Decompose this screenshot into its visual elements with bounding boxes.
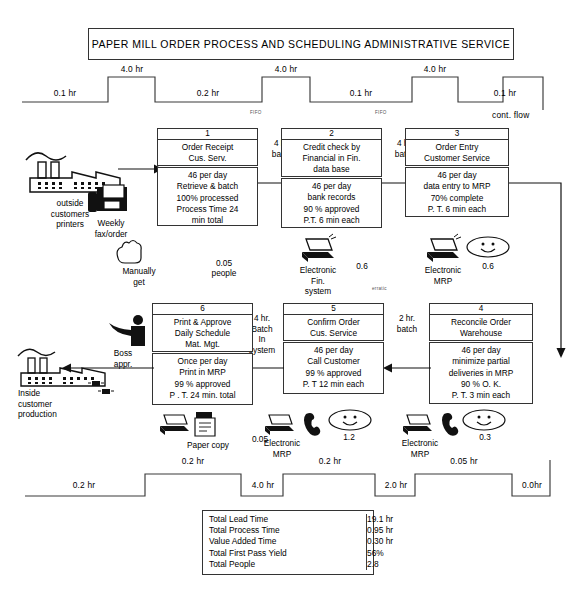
table-row: Total Process Time 0.95 hr [209, 525, 367, 536]
summary-value-2: 0.30 hr [366, 536, 367, 547]
erratic-label: erratic [372, 286, 412, 291]
diagram-title-box: PAPER MILL ORDER PROCESS AND SCHEDULING … [88, 28, 514, 60]
paper-icon [190, 410, 222, 440]
flow-arrow-4-5 [383, 361, 431, 375]
process-2-data: 46 per day bank records 90 % approved P.… [281, 178, 382, 228]
resource-manual-people: 0.05 [198, 258, 250, 269]
process-6-name: Print & Approve Daily Schedule Mat. Mgt. [153, 315, 252, 354]
process-5-data: 46 per day Call Customer 99 % approved P… [283, 342, 384, 394]
summary-key-0: Total Lead Time [209, 514, 268, 525]
process-6-data: Once per day Print in MRP 99 % approved … [152, 353, 253, 405]
resource-fin-system-people: 0.6 [345, 261, 379, 272]
summary-key-3: Total First Pass Yield [209, 548, 287, 559]
summary-value-3: 56% [366, 548, 367, 559]
batch-label-4: 2 hr. batch [387, 313, 427, 334]
process-4-number: 4 [430, 304, 532, 315]
table-row: Total First Pass Yield 56% [209, 548, 367, 559]
top-time-2: 0.2 hr [165, 88, 251, 98]
process-1-name: Order Receipt Cus. Serv. [158, 140, 257, 167]
page-title: PAPER MILL ORDER PROCESS AND SCHEDULING … [92, 38, 510, 50]
process-box-1[interactable]: 1 Order Receipt Cus. Serv. [157, 128, 258, 166]
computer-icon [157, 412, 191, 438]
bot-time-4: 2.0 hr [375, 480, 417, 490]
resource-mrp-label-top: Electronic MRP [413, 265, 473, 286]
summary-value-0: 19.1 hr [366, 514, 367, 525]
bot-time-1: 0.2 hr [146, 456, 240, 466]
process-6-number: 6 [153, 304, 252, 315]
top-time-4: 0.1 hr [318, 88, 404, 98]
table-row: Total People 2.8 [209, 559, 367, 570]
process-3-name: Order Entry Customer Service [406, 140, 508, 167]
summary-key-1: Total Process Time [209, 525, 280, 536]
bot-time-2: 4.0 hr [242, 480, 284, 490]
smiley-face-icon [328, 409, 372, 431]
truck-shipment-icon [74, 377, 118, 395]
resource-mrp-people-top: 0.6 [473, 261, 503, 272]
computer-icon [262, 412, 296, 438]
fifo-label-2: FIFO [375, 110, 405, 115]
computer-icon [423, 236, 461, 264]
top-time-0: 0.1 hr [22, 88, 108, 98]
process-4-data: 46 per day minimize partial deliveries i… [429, 342, 533, 404]
phone-icon [300, 411, 326, 435]
process-4-name: Reconcile Order Warehouse [430, 315, 532, 342]
process-5-number: 5 [284, 304, 383, 315]
fax-machine-icon [85, 183, 133, 217]
process-2-name: Credit check by Financial in Fin. data b… [282, 140, 381, 179]
process-1-data: 46 per day Retrieve & batch 100% process… [157, 167, 258, 226]
hand-icon [114, 238, 148, 264]
computer-icon [298, 236, 336, 264]
top-time-3: 4.0 hr [255, 64, 317, 74]
resource-mrp-people-4: 0.3 [468, 432, 502, 443]
process-box-4[interactable]: 4 Reconcile Order Warehouse [429, 303, 533, 341]
process-box-2[interactable]: 2 Credit check by Financial in Fin. data… [281, 128, 382, 177]
process-box-6[interactable]: 6 Print & Approve Daily Schedule Mat. Mg… [152, 303, 253, 352]
fifo-label-1: FIFO [250, 110, 280, 115]
phone-icon [438, 411, 464, 435]
bot-time-6: 0.0hr [510, 480, 554, 490]
process-2-number: 2 [282, 129, 381, 140]
smiley-face-icon [462, 409, 506, 431]
bot-time-3: 0.2 hr [285, 456, 375, 466]
summary-value-4: 2.8 [366, 559, 367, 570]
process-3-number: 3 [406, 129, 508, 140]
process-5-name: Confirm Order Cus. Service [284, 315, 383, 342]
top-time-6: 0.1 hr [462, 88, 548, 98]
resource-manual-people-unit: people [198, 268, 250, 279]
smiley-face-icon [466, 236, 510, 258]
top-time-1: 4.0 hr [101, 64, 163, 74]
resource-fin-system-label: Electronic Fin. system [288, 265, 348, 297]
bot-time-5: 0.05 hr [418, 456, 510, 466]
summary-key-2: Value Added Time [209, 536, 276, 547]
resource-mrp-people-5: 1.2 [332, 432, 366, 443]
top-time-5: 4.0 hr [404, 64, 466, 74]
process-3-data: 46 per day data entry to MRP 70% complet… [405, 167, 509, 217]
process-box-3[interactable]: 3 Order Entry Customer Service [405, 128, 509, 166]
process-box-5[interactable]: 5 Confirm Order Cus. Service [283, 303, 384, 341]
resource-manual-label: Manually get [108, 266, 170, 287]
summary-key-4: Total People [209, 559, 255, 570]
table-row: Value Added Time 0.30 hr [209, 536, 367, 547]
table-row: Total Lead Time 19.1 hr [209, 514, 367, 525]
process-1-number: 1 [158, 129, 257, 140]
summary-value-1: 0.95 hr [366, 525, 367, 536]
value-stream-map: PAPER MILL ORDER PROCESS AND SCHEDULING … [0, 0, 575, 597]
fax-order-label: Weekly fax/order [80, 218, 142, 239]
resource-paper-copy-label: Paper copy [172, 440, 244, 451]
computer-icon [400, 412, 434, 438]
bot-time-0: 0.2 hr [25, 480, 143, 490]
cont-flow-label: cont. flow [492, 110, 562, 120]
summary-table: Total Lead Time 19.1 hr Total Process Ti… [202, 510, 374, 575]
